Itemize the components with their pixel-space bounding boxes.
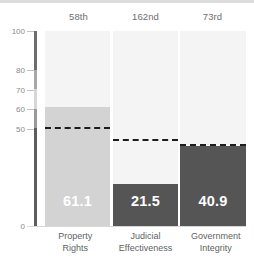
category-label-property-rights: Property Rights xyxy=(40,231,110,259)
reference-line-judicial-effectiveness xyxy=(113,139,178,141)
bar-value-label-judicial-effectiveness: 21.5 xyxy=(113,193,178,209)
bar-group-government-integrity[interactable]: 40.9 xyxy=(180,31,246,226)
bar-value-label-property-rights: 61.1 xyxy=(45,193,110,209)
bar-value-label-government-integrity: 40.9 xyxy=(180,193,246,209)
y-axis-tick-label-70: 70 xyxy=(0,85,25,94)
y-axis-tick-label-50: 50 xyxy=(0,124,25,133)
y-axis-tick-mark-100 xyxy=(27,31,34,32)
y-axis-tick-label-80: 80 xyxy=(0,66,25,75)
category-label-line-1: Government xyxy=(181,231,251,243)
category-label-line-2: Integrity xyxy=(181,243,251,255)
category-label-judicial-effectiveness: Judicial Effectiveness xyxy=(110,231,180,259)
y-axis-tick-mark-50 xyxy=(27,129,34,130)
y-axis-tick-label-0: 0 xyxy=(0,222,25,231)
category-label-line-2: Rights xyxy=(40,243,110,255)
y-axis-spine xyxy=(34,31,37,226)
y-axis-tick-label-100: 100 xyxy=(0,27,25,36)
bar-fill-government-integrity[interactable] xyxy=(180,146,246,226)
y-axis-tick-label-60: 60 xyxy=(0,105,25,114)
category-label-government-integrity: Government Integrity xyxy=(181,231,251,259)
y-axis-tick-mark-80 xyxy=(27,70,34,71)
reference-line-property-rights xyxy=(45,127,110,129)
reference-line-government-integrity xyxy=(180,144,246,146)
bar-group-property-rights[interactable]: 61.1 xyxy=(45,31,110,226)
y-axis-tick-mark-70 xyxy=(27,90,34,91)
category-label-line-1: Property xyxy=(40,231,110,243)
chart-root: 58th 162nd 73rd 100 80 70 60 50 0 61.1 xyxy=(0,0,254,259)
x-axis-baseline xyxy=(27,226,246,227)
category-label-line-1: Judicial xyxy=(110,231,180,243)
bar-group-judicial-effectiveness[interactable]: 21.5 xyxy=(113,31,178,226)
category-label-line-2: Effectiveness xyxy=(110,243,180,255)
plot-area: 100 80 70 60 50 0 61.1 21.5 xyxy=(0,0,254,259)
y-axis-tick-mark-60 xyxy=(27,109,34,110)
category-label-row: Property Rights Judicial Effectiveness G… xyxy=(40,231,251,259)
